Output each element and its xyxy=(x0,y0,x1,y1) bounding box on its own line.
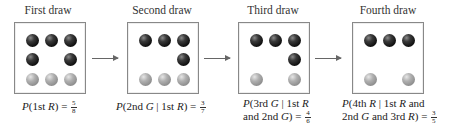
red-ball xyxy=(158,34,171,47)
red-ball xyxy=(177,34,190,47)
green-ball xyxy=(158,73,171,86)
arrow-icon xyxy=(204,58,230,59)
green-ball xyxy=(250,73,263,86)
urn-box-2 xyxy=(127,22,199,94)
arrow-icon xyxy=(315,58,341,59)
stage-title: Third draw xyxy=(225,4,321,16)
stage-title: Second draw xyxy=(114,4,210,16)
red-ball xyxy=(364,34,377,47)
red-ball xyxy=(288,34,301,47)
green-ball xyxy=(26,73,39,86)
red-ball xyxy=(402,34,415,47)
red-ball xyxy=(250,34,263,47)
red-ball xyxy=(64,53,77,66)
red-ball xyxy=(64,34,77,47)
green-ball xyxy=(364,73,377,86)
red-ball xyxy=(26,53,39,66)
stage-title: First draw xyxy=(0,4,96,16)
red-ball xyxy=(45,34,58,47)
fraction: 46 xyxy=(305,110,311,125)
green-ball xyxy=(288,73,301,86)
caption-fourth-draw: P(4th R | 1st R and 2nd G and 3rd R) = 3… xyxy=(342,97,437,125)
stage-title: Fourth draw xyxy=(340,4,436,16)
red-ball xyxy=(383,34,396,47)
caption-third-draw: P(3rd G | 1st R and 2nd G) = 46 xyxy=(243,97,311,125)
fraction: 37 xyxy=(200,100,206,115)
red-ball xyxy=(26,34,39,47)
green-ball xyxy=(45,73,58,86)
caption-first-draw: P(1st R) = 58 xyxy=(22,100,77,115)
fraction: 58 xyxy=(71,100,77,115)
green-ball xyxy=(402,73,415,86)
red-ball xyxy=(269,34,282,47)
urn-box-1 xyxy=(14,22,86,94)
urn-box-4 xyxy=(352,22,424,94)
red-ball xyxy=(177,53,190,66)
green-ball xyxy=(177,73,190,86)
red-ball xyxy=(288,53,301,66)
red-ball xyxy=(139,34,152,47)
fraction: 35 xyxy=(431,110,437,125)
caption-second-draw: P(2nd G | 1st R) = 37 xyxy=(116,100,206,115)
arrow-icon xyxy=(92,58,118,59)
urn-box-3 xyxy=(238,22,310,94)
green-ball xyxy=(64,73,77,86)
green-ball xyxy=(139,73,152,86)
